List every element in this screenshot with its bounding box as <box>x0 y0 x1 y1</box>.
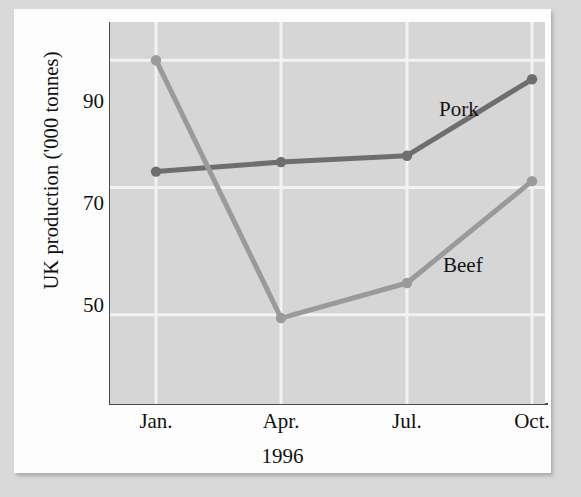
series-layer <box>151 55 537 323</box>
x-tick-label-apr: Apr. <box>231 409 331 434</box>
data-point-pork-Jan <box>151 166 161 176</box>
y-tick-label-70: 70 <box>44 191 104 216</box>
data-point-pork-Jul <box>402 151 412 161</box>
x-axis-title: 1996 <box>14 444 551 469</box>
series-label-pork: Pork <box>439 97 479 122</box>
x-tick-label-jan: Jan. <box>106 409 206 434</box>
chart-canvas <box>110 22 545 404</box>
plot-area: Pork Beef <box>110 22 545 404</box>
data-point-beef-Oct <box>527 176 537 186</box>
data-point-beef-Apr <box>276 313 286 323</box>
y-tick-label-50: 50 <box>44 293 104 318</box>
data-point-pork-Apr <box>276 157 286 167</box>
y-tick-label-90: 90 <box>44 89 104 114</box>
x-tick-label-oct: Oct. <box>482 409 581 434</box>
series-label-beef: Beef <box>443 253 483 278</box>
x-tick-label-jul: Jul. <box>357 409 457 434</box>
data-point-beef-Jul <box>402 278 412 288</box>
figure-card: UK production ('000 tonnes) 90 70 50 Por… <box>14 9 551 473</box>
series-line-pork <box>156 79 532 171</box>
data-point-pork-Oct <box>527 74 537 84</box>
y-tick-label-group: 90 70 50 <box>30 9 104 473</box>
gridlines <box>110 22 545 404</box>
data-point-beef-Jan <box>151 55 161 65</box>
